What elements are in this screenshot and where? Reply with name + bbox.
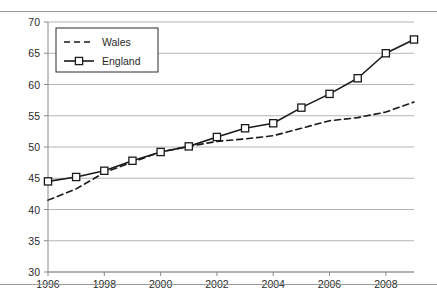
y-tick-label-65: 65 [28, 47, 40, 59]
marker-england-2000 [157, 148, 164, 155]
marker-england-2007 [354, 75, 361, 82]
legend-marker-england [75, 57, 82, 64]
x-axis-ticks [48, 272, 386, 276]
bottom-divider-rule [0, 284, 437, 285]
marker-england-2005 [298, 104, 305, 111]
y-tick-label-50: 50 [28, 141, 40, 153]
y-tick-label-30: 30 [28, 266, 40, 278]
marker-england-2008 [382, 50, 389, 57]
marker-england-2001 [185, 143, 192, 150]
line-chart-plot: 706560555045403530 199619982000200220042… [0, 0, 437, 292]
y-tick-label-35: 35 [28, 235, 40, 247]
y-axis-ticks [44, 22, 48, 272]
marker-england-2006 [326, 90, 333, 97]
chart-figure: 706560555045403530 199619982000200220042… [0, 0, 437, 292]
marker-england-2004 [270, 120, 277, 127]
y-tick-label-60: 60 [28, 79, 40, 91]
chart-legend: WalesEngland [56, 28, 158, 72]
y-tick-label-40: 40 [28, 204, 40, 216]
marker-england-1997 [73, 173, 80, 180]
y-tick-label-55: 55 [28, 110, 40, 122]
top-divider-rule [0, 11, 437, 12]
marker-england-2002 [213, 133, 220, 140]
legend-label-england: England [102, 55, 141, 67]
y-axis-tick-labels: 706560555045403530 [28, 16, 40, 278]
y-tick-label-70: 70 [28, 16, 40, 28]
y-tick-label-45: 45 [28, 172, 40, 184]
marker-england-1998 [101, 167, 108, 174]
marker-england-1999 [129, 157, 136, 164]
marker-england-2009 [410, 36, 417, 43]
legend-label-wales: Wales [102, 36, 131, 48]
marker-england-2003 [241, 125, 248, 132]
polyline-wales [48, 102, 414, 200]
marker-england-1996 [44, 178, 51, 185]
series-line-wales [48, 102, 414, 200]
